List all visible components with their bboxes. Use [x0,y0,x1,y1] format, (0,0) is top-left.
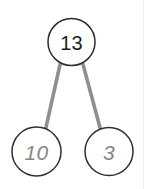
node-root-whole: 13 [48,19,95,66]
right-edge-hairline [143,0,144,189]
connector-root-to-right-child [83,63,101,130]
connector-root-to-left-child [46,63,61,130]
number-bond-canvas: 13 10 3 [0,0,148,189]
node-right-part-label: 3 [103,141,115,164]
number-bond-diagram: 13 10 3 [0,0,148,189]
node-right-part: 3 [85,128,133,176]
node-left-part-label: 10 [25,141,49,164]
node-root-label: 13 [60,32,83,54]
node-left-part: 10 [12,127,61,176]
